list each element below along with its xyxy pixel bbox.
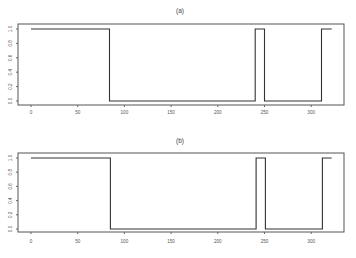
y-tick-label: 0.8 [8,169,13,176]
panel-a-x-axis: 050100150200250300 [30,105,316,115]
y-tick-label: 0.6 [8,183,13,190]
y-tick-label: 0.8 [8,40,13,47]
x-tick-label: 0 [30,110,33,115]
panel-b-x-axis: 050100150200250300 [30,232,316,244]
y-tick-label: 0.0 [8,225,13,232]
x-tick-label: 150 [167,239,175,244]
panel-a: (a) 050100150200250300 0.00.20.40.60.81.… [8,7,344,115]
x-tick-label: 250 [261,239,269,244]
panel-b-step-line [31,158,332,229]
chart-canvas: (a) 050100150200250300 0.00.20.40.60.81.… [0,0,356,258]
y-tick-label: 0.4 [8,197,13,204]
panel-a-frame [18,24,344,105]
y-tick-label: 0.6 [8,54,13,61]
x-tick-label: 150 [167,110,175,115]
x-tick-label: 50 [75,110,81,115]
x-tick-label: 0 [30,239,33,244]
y-tick-label: 0.4 [8,69,13,76]
x-tick-label: 200 [214,239,222,244]
panel-a-y-axis: 0.00.20.40.60.81.0 [8,25,18,104]
x-tick-label: 50 [75,239,81,244]
y-tick-label: 0.2 [8,211,13,218]
x-tick-label: 300 [307,239,315,244]
x-tick-label: 100 [121,110,129,115]
y-tick-label: 0.0 [8,97,13,104]
panel-b-y-axis: 0.00.20.40.60.81.0 [8,154,18,232]
panel-b: (b) 050100150200250300 0.00.20.40.60.81.… [8,137,344,244]
x-tick-label: 200 [214,110,222,115]
panel-b-frame [18,153,344,232]
y-tick-label: 0.2 [8,83,13,90]
x-tick-label: 250 [261,110,269,115]
panel-b-title: (b) [176,137,184,145]
panel-a-step-line [31,29,332,101]
y-tick-label: 1.0 [8,154,13,161]
panel-a-title: (a) [176,7,184,15]
y-tick-label: 1.0 [8,25,13,32]
x-tick-label: 300 [307,110,315,115]
x-tick-label: 100 [121,239,129,244]
figure: (a) 050100150200250300 0.00.20.40.60.81.… [0,0,356,258]
